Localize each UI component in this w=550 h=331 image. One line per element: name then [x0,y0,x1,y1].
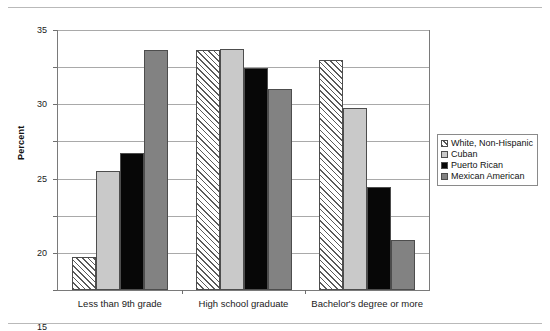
y-tick-mark: 20 [53,141,57,142]
legend-item[interactable]: Mexican American [441,171,533,182]
legend-item-label: Mexican American [451,171,525,182]
y-tick-mark: 10 [53,216,57,217]
bar [391,240,415,291]
y-tick-mark: 25 [53,104,57,105]
x-axis-line [57,290,430,291]
y-tick-label: 15 [37,322,47,331]
y-tick-mark: 0 [53,290,57,291]
legend-swatch-icon [441,173,448,180]
legend-swatch-icon [441,151,448,158]
chart-figure: Percent 05101520253035 Less than 9th gra… [0,0,550,331]
plot-right-border [429,30,430,291]
y-tick-mark: 30 [53,67,57,68]
legend-item-label: Puerto Rican [451,160,503,171]
bar [319,60,343,290]
bar [196,50,220,290]
bar [220,49,244,290]
bar [268,89,292,290]
bars-layer [58,30,429,290]
chart-legend: White, Non-HispanicCubanPuerto RicanMexi… [437,134,538,186]
y-tick-label: 30 [37,99,47,109]
x-axis-tick [182,290,183,294]
bar [343,108,367,290]
bar [96,171,120,290]
y-axis-title: Percent [16,126,26,160]
legend-swatch-icon [441,162,448,169]
y-tick-mark: 5 [53,253,57,254]
y-tick-label: 35 [37,25,47,35]
y-tick-mark: 35 [53,30,57,31]
x-axis-group-label: High school graduate [199,298,289,309]
plot-area: 05101520253035 Less than 9th gradeHigh s… [57,30,430,290]
x-axis-tick [305,290,306,294]
bar [72,257,96,290]
bar [144,50,168,290]
y-tick-mark: 15 [53,179,57,180]
legend-item-label: White, Non-Hispanic [451,138,533,149]
legend-swatch-icon [441,140,448,147]
x-axis-group-label: Less than 9th grade [78,298,162,309]
figure-top-rule [8,7,542,8]
legend-item-label: Cuban [451,149,478,160]
x-axis-group-label: Bachelor's degree or more [311,298,423,309]
bar [244,68,268,290]
legend-item[interactable]: White, Non-Hispanic [441,138,533,149]
figure-bottom-rule [8,323,542,324]
legend-item[interactable]: Puerto Rican [441,160,533,171]
bar [120,153,144,290]
y-tick-label: 20 [37,248,47,258]
y-tick-label: 25 [37,174,47,184]
bar [367,187,391,290]
legend-item[interactable]: Cuban [441,149,533,160]
